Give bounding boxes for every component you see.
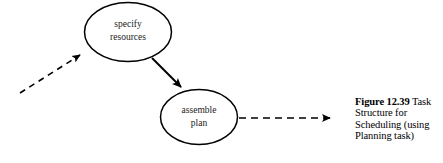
node-specify-resources-label-line1: specify bbox=[114, 19, 142, 29]
figure-caption-label: Figure 12.39 bbox=[355, 96, 410, 107]
node-specify-resources-label-line2: resources bbox=[110, 32, 146, 42]
figure-caption: Figure 12.39 Task Structure for Scheduli… bbox=[355, 96, 443, 142]
node-assemble-plan-label-line2: plan bbox=[191, 118, 208, 128]
incoming-dashed-arrow bbox=[20, 55, 80, 93]
specify-to-assemble-arrow bbox=[152, 58, 181, 87]
node-assemble-plan-label-line1: assemble bbox=[182, 105, 217, 115]
node-assemble-plan[interactable] bbox=[161, 90, 238, 145]
figure-container: specify resources assemble plan Figure 1… bbox=[0, 0, 443, 163]
